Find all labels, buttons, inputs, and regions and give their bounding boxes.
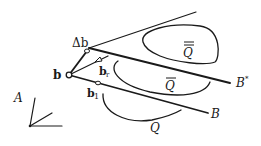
b-origin-point: [66, 72, 72, 78]
label-delta-b: Δb: [72, 36, 89, 50]
b-1-marker: [96, 81, 101, 85]
axis-a-diagonal: [30, 113, 52, 126]
label-b-set: B: [210, 107, 220, 121]
label-q-bar: Q: [165, 79, 175, 93]
line-b-star: [89, 48, 230, 83]
label-b-r-sub: r: [106, 71, 110, 79]
label-q-double-bar: Q: [183, 46, 193, 60]
label-b-star-sup: *: [245, 75, 249, 83]
b-r-arrowhead-icon: [95, 57, 102, 62]
q-curve: [103, 94, 181, 121]
label-q: Q: [150, 121, 160, 135]
label-b: b: [53, 68, 61, 82]
axis-a-vertical: [30, 98, 35, 126]
budget-set-diagram: Δb b b r b 1 B * B Q Q Q A: [0, 0, 261, 146]
axis-a-origin: [29, 125, 32, 128]
label-a: A: [13, 91, 23, 105]
label-b-star: B: [235, 76, 245, 90]
q-double-bar-region: [143, 25, 218, 64]
label-b-1-sub: 1: [94, 92, 99, 101]
delta-b-vector: [69, 51, 87, 75]
